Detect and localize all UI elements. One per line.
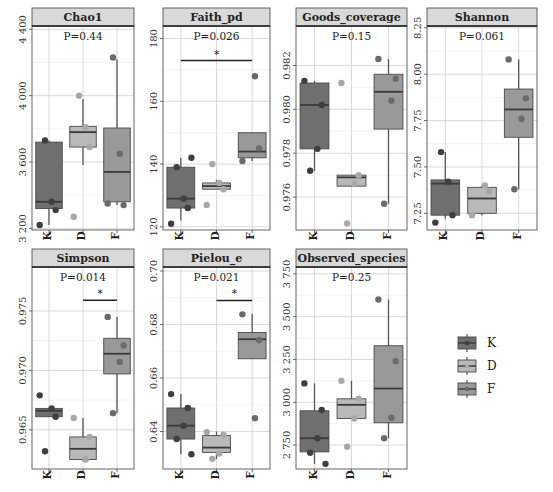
panel-shannon: 7.257.507.758.008.25P=0.061ShannonKDF: [412, 8, 537, 241]
data-point: [216, 180, 222, 186]
box-iqr: [167, 167, 195, 208]
y-tick-label: 140: [148, 155, 159, 174]
data-point: [344, 444, 350, 450]
panel-title: Faith_pd: [190, 11, 243, 25]
data-point: [307, 168, 313, 174]
data-point: [351, 415, 357, 421]
box-iqr: [238, 333, 266, 359]
data-point: [116, 151, 122, 157]
data-point: [209, 161, 215, 167]
data-point: [482, 182, 488, 188]
p-value-label: P=0.021: [194, 271, 240, 283]
data-point: [252, 415, 258, 421]
data-point: [505, 56, 511, 62]
data-point: [511, 186, 517, 192]
p-value-label: P=0.061: [459, 30, 505, 42]
data-point: [438, 149, 444, 155]
box-iqr: [374, 346, 403, 423]
y-tick-label: 3 750: [281, 260, 292, 289]
panel-chao1: 3 2003 6004 0004 400P=0.44Chao1KDF: [17, 8, 134, 243]
panel-title: Observed_species: [298, 252, 406, 266]
data-point: [71, 415, 77, 421]
data-point: [486, 188, 492, 194]
legend-item-k: K: [458, 334, 497, 352]
x-tick-label: D: [75, 470, 87, 479]
x-tick-label: K: [437, 231, 449, 241]
y-tick-label: 0.66: [148, 367, 159, 389]
x-tick-label: D: [344, 470, 356, 479]
data-point: [173, 436, 179, 442]
box-iqr: [300, 411, 329, 452]
data-point: [239, 311, 245, 317]
data-point: [185, 405, 191, 411]
panel-title: Pielou_e: [191, 252, 242, 266]
legend-item-d: D: [458, 357, 497, 375]
box-iqr: [431, 180, 460, 215]
x-tick-label: F: [381, 471, 393, 479]
data-point: [86, 434, 92, 440]
significance-star: *: [97, 287, 103, 299]
legend-point: [465, 387, 469, 391]
data-point: [105, 200, 111, 206]
p-value-label: P=0.15: [332, 30, 371, 42]
data-point: [388, 97, 394, 103]
data-point: [105, 314, 111, 320]
panel-title: Shannon: [455, 11, 509, 24]
data-point: [216, 450, 222, 456]
y-tick-label: 0.975: [17, 297, 28, 326]
legend-point: [465, 341, 469, 345]
box-iqr: [203, 436, 231, 453]
box-d: [468, 182, 497, 218]
panel-title: Simpson: [57, 252, 110, 265]
y-tick-label: 3 250: [281, 345, 292, 374]
data-point: [209, 456, 215, 462]
data-point: [301, 78, 307, 84]
y-tick-label: 0.70: [148, 260, 159, 282]
data-point: [52, 207, 58, 213]
panel-goods_coverage: 0.9760.9780.9800.982P=0.15Goods_coverage…: [281, 8, 407, 241]
y-tick-label: 0.982: [281, 51, 292, 80]
y-tick-label: 3 600: [17, 148, 28, 177]
data-point: [82, 456, 88, 462]
y-tick-label: 0.965: [17, 415, 28, 444]
data-point: [314, 146, 320, 152]
y-tick-label: 0.68: [148, 313, 159, 335]
data-point: [375, 296, 381, 302]
data-point: [314, 435, 320, 441]
y-tick-label: 3 500: [281, 302, 292, 331]
x-tick-label: D: [474, 231, 486, 240]
data-point: [381, 435, 387, 441]
data-point: [82, 124, 88, 130]
data-point: [37, 392, 43, 398]
p-value-label: P=0.014: [60, 271, 106, 283]
y-tick-label: 3 200: [17, 214, 28, 243]
data-point: [42, 137, 48, 143]
x-tick-label: D: [209, 470, 221, 479]
data-point: [252, 73, 258, 79]
x-tick-label: F: [244, 471, 256, 479]
x-tick-label: K: [307, 470, 319, 480]
data-point: [168, 221, 174, 227]
data-point: [307, 450, 313, 456]
data-point: [116, 359, 122, 365]
data-point: [256, 145, 262, 151]
y-tick-label: 8.25: [412, 17, 423, 39]
x-tick-label: F: [109, 232, 121, 240]
data-point: [220, 432, 226, 438]
data-point: [188, 451, 194, 457]
box-iqr: [504, 89, 533, 137]
y-tick-label: 0.64: [148, 420, 159, 442]
legend-label: K: [487, 336, 497, 350]
significance-star: *: [232, 287, 238, 299]
panel-title: Chao1: [64, 11, 103, 24]
data-point: [319, 407, 325, 413]
legend: KDF: [458, 334, 497, 398]
significance-star: *: [214, 48, 220, 60]
legend-item-f: F: [458, 380, 495, 398]
data-point: [239, 158, 245, 164]
data-point: [322, 461, 328, 467]
data-point: [52, 414, 58, 420]
data-point: [37, 222, 43, 228]
data-point: [393, 75, 399, 81]
data-point: [180, 422, 186, 428]
